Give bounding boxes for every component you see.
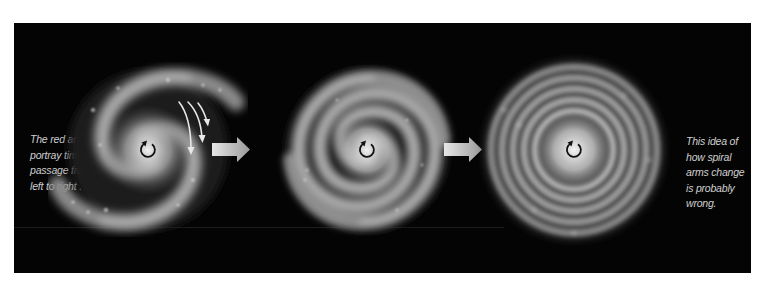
right-caption-line-4: is probably xyxy=(686,181,745,197)
right-caption: This idea of how spiral arms change is p… xyxy=(686,134,745,212)
right-caption-line-1: This idea of xyxy=(686,134,745,150)
right-caption-line-3: arms change xyxy=(686,165,745,181)
right-caption-line-5: wrong. xyxy=(686,196,745,212)
stage-1-to-2-arrow xyxy=(211,136,251,163)
galaxy-stage-2 xyxy=(267,50,467,250)
right-caption-line-2: how spiral xyxy=(686,150,745,166)
diagram-panel: The red arrows portray time's passage fr… xyxy=(14,23,751,273)
galaxy-stage-3 xyxy=(474,50,674,250)
